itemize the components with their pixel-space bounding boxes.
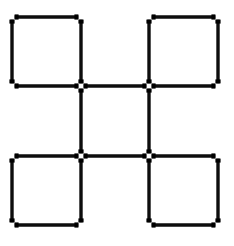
- figure-background: [0, 0, 234, 246]
- matchstick-figure: [0, 0, 234, 246]
- matchstick-canvas: [0, 0, 234, 246]
